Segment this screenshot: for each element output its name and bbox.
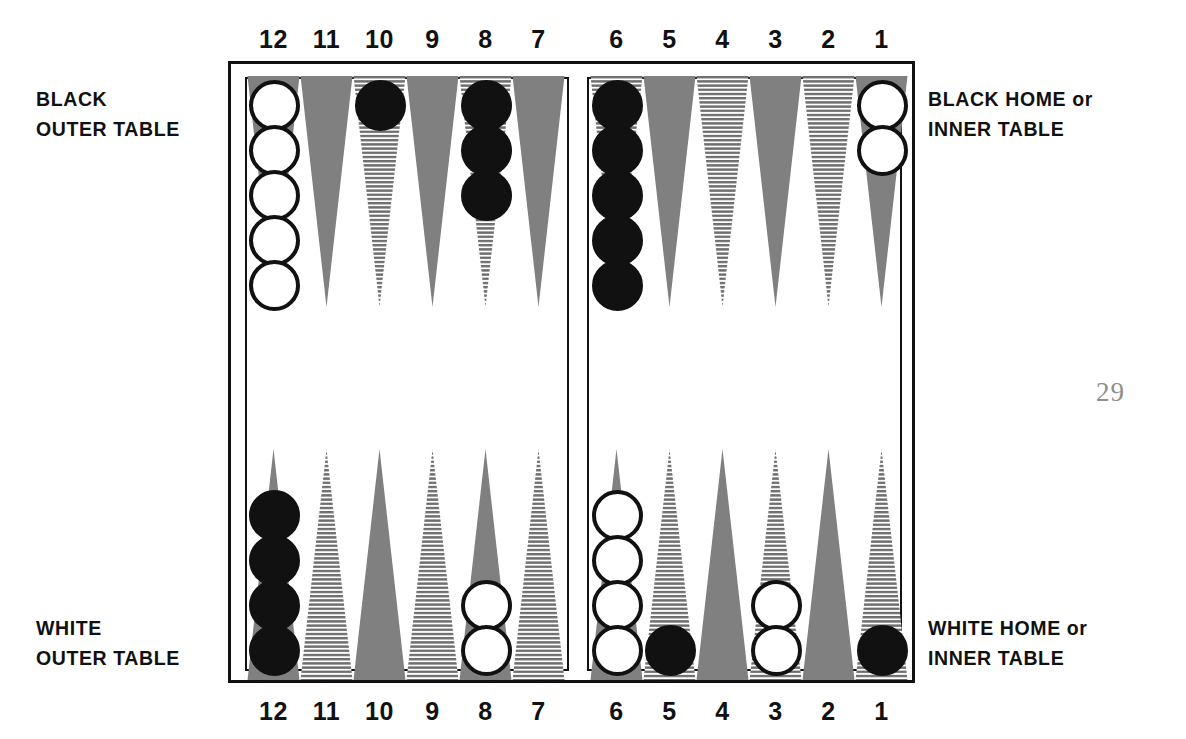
bottom-number-1-right: 1 — [855, 694, 908, 728]
checker-black[interactable] — [461, 170, 512, 221]
checker-white[interactable] — [249, 215, 300, 266]
label-white-home-line2: INNER TABLE — [928, 643, 1087, 673]
checker-stack-white-outer-table-8[interactable] — [459, 580, 512, 676]
checker-white[interactable] — [751, 625, 802, 676]
point-numbers-bottom: 121110987654321 — [0, 694, 1186, 728]
point-white-home-inner-table-4[interactable] — [696, 448, 749, 680]
checker-white[interactable] — [249, 80, 300, 131]
point-black-home-inner-table-5[interactable] — [643, 76, 696, 308]
checker-black[interactable] — [461, 125, 512, 176]
checker-white[interactable] — [592, 625, 643, 676]
backgammon-diagram-page: 121110987654321 BLACK OUTER TABLE BLACK … — [0, 0, 1186, 739]
label-black-home-inner-table: BLACK HOME or INNER TABLE — [928, 84, 1093, 144]
bottom-number-11-left: 11 — [300, 694, 353, 728]
checker-black[interactable] — [592, 215, 643, 266]
bottom-number-6-right: 6 — [590, 694, 643, 728]
top-number-5-right: 5 — [643, 22, 696, 56]
bottom-number-9-left: 9 — [406, 694, 459, 728]
checker-black[interactable] — [461, 80, 512, 131]
top-number-4-right: 4 — [696, 22, 749, 56]
label-white-home-line1: WHITE HOME or — [928, 613, 1087, 643]
checker-stack-white-outer-table-12[interactable] — [247, 490, 300, 676]
top-number-8-left: 8 — [459, 22, 512, 56]
top-number-2-right: 2 — [802, 22, 855, 56]
checker-black[interactable] — [355, 80, 406, 131]
point-white-outer-table-10[interactable] — [353, 448, 406, 680]
point-black-home-inner-table-2[interactable] — [802, 76, 855, 308]
checker-stack-black-home-inner-table-6[interactable] — [590, 80, 643, 311]
checker-white[interactable] — [751, 580, 802, 631]
checker-black[interactable] — [249, 580, 300, 631]
checker-black[interactable] — [592, 260, 643, 311]
checker-black[interactable] — [249, 490, 300, 541]
bottom-number-2-right: 2 — [802, 694, 855, 728]
point-black-outer-table-11[interactable] — [300, 76, 353, 308]
point-white-outer-table-7[interactable] — [512, 448, 565, 680]
checker-black[interactable] — [592, 125, 643, 176]
checker-stack-white-home-inner-table-1[interactable] — [855, 625, 908, 676]
checker-stack-black-outer-table-12[interactable] — [247, 80, 300, 311]
bottom-number-5-right: 5 — [643, 694, 696, 728]
label-black-home-main: BLACK HOME — [928, 88, 1066, 110]
bottom-number-3-right: 3 — [749, 694, 802, 728]
checker-white[interactable] — [249, 125, 300, 176]
bottom-number-4-right: 4 — [696, 694, 749, 728]
label-white-home-inner-table: WHITE HOME or INNER TABLE — [928, 613, 1087, 673]
point-white-outer-table-11[interactable] — [300, 448, 353, 680]
point-black-home-inner-table-4[interactable] — [696, 76, 749, 308]
checker-stack-black-outer-table-10[interactable] — [353, 80, 406, 131]
checker-white[interactable] — [249, 260, 300, 311]
checker-white[interactable] — [592, 535, 643, 586]
label-white-outer-line2: OUTER TABLE — [36, 643, 180, 673]
checker-black[interactable] — [249, 625, 300, 676]
label-black-home-line2: INNER TABLE — [928, 114, 1093, 144]
checker-stack-black-outer-table-8[interactable] — [459, 80, 512, 221]
checker-white[interactable] — [592, 580, 643, 631]
point-white-outer-table-9[interactable] — [406, 448, 459, 680]
top-number-9-left: 9 — [406, 22, 459, 56]
checker-stack-black-home-inner-table-1[interactable] — [855, 80, 908, 176]
checker-black[interactable] — [857, 625, 908, 676]
point-numbers-top: 121110987654321 — [0, 22, 1186, 56]
bottom-number-12-left: 12 — [247, 694, 300, 728]
checker-white[interactable] — [461, 625, 512, 676]
label-black-outer-line1: BLACK — [36, 84, 180, 114]
point-black-outer-table-7[interactable] — [512, 76, 565, 308]
checker-white[interactable] — [592, 490, 643, 541]
checker-white[interactable] — [461, 580, 512, 631]
checker-stack-white-home-inner-table-6[interactable] — [590, 490, 643, 676]
checker-stack-white-home-inner-table-3[interactable] — [749, 580, 802, 676]
label-black-home-or: or — [1072, 88, 1093, 110]
checker-white[interactable] — [249, 170, 300, 221]
label-black-home-line1: BLACK HOME or — [928, 84, 1093, 114]
top-number-3-right: 3 — [749, 22, 802, 56]
label-white-home-or: or — [1067, 617, 1088, 639]
bottom-number-7-left: 7 — [512, 694, 565, 728]
top-number-7-left: 7 — [512, 22, 565, 56]
checker-black[interactable] — [592, 80, 643, 131]
top-number-6-right: 6 — [590, 22, 643, 56]
point-white-home-inner-table-2[interactable] — [802, 448, 855, 680]
top-number-11-left: 11 — [300, 22, 353, 56]
page-number: 29 — [1096, 377, 1125, 408]
label-white-outer-table: WHITE OUTER TABLE — [36, 613, 180, 673]
top-number-10-left: 10 — [353, 22, 406, 56]
checker-white[interactable] — [857, 125, 908, 176]
label-black-outer-line2: OUTER TABLE — [36, 114, 180, 144]
checker-black[interactable] — [249, 535, 300, 586]
checker-white[interactable] — [857, 80, 908, 131]
top-number-12-left: 12 — [247, 22, 300, 56]
checker-stack-white-home-inner-table-5[interactable] — [643, 625, 696, 676]
label-white-home-main: WHITE HOME — [928, 617, 1061, 639]
point-black-home-inner-table-3[interactable] — [749, 76, 802, 308]
bottom-number-8-left: 8 — [459, 694, 512, 728]
checker-black[interactable] — [592, 170, 643, 221]
bottom-number-10-left: 10 — [353, 694, 406, 728]
label-white-outer-line1: WHITE — [36, 613, 180, 643]
point-black-outer-table-9[interactable] — [406, 76, 459, 308]
checker-black[interactable] — [645, 625, 696, 676]
label-black-outer-table: BLACK OUTER TABLE — [36, 84, 180, 144]
top-number-1-right: 1 — [855, 22, 908, 56]
